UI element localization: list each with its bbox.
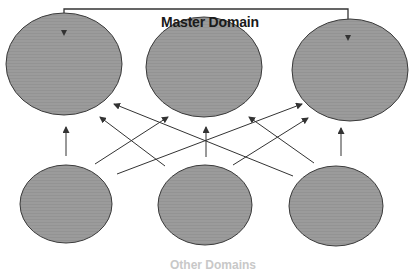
master-domain-title: Master Domain (161, 14, 259, 30)
arrow-other-middle-to-master-left (100, 117, 165, 166)
master-node-master-right (292, 19, 408, 121)
arrow-other-middle-to-master-right (233, 118, 308, 165)
master-node-master-left (6, 13, 122, 115)
master-node-master-middle (146, 17, 262, 117)
other-domain-group (20, 165, 383, 246)
other-node-other-middle (158, 165, 252, 245)
other-node-other-left (20, 165, 112, 243)
other-domains-caption: Other Domains (170, 258, 256, 272)
arrow-other-right-to-master-middle (249, 117, 314, 163)
other-node-other-right (289, 166, 383, 246)
